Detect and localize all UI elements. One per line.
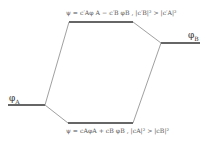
connector-lower-to-b (133, 43, 161, 123)
phi-b-label: φB (188, 30, 199, 42)
phi-a-subscript: A (15, 98, 19, 105)
phi-b-subscript: B (194, 35, 198, 42)
connector-upper-to-b (133, 22, 161, 43)
antibonding-equation: ψ = c′Aφ A − c′B φB , |c′B|² > |c′A|² (66, 9, 177, 16)
connector-a-to-upper (45, 22, 69, 105)
connector-a-to-lower (45, 105, 68, 123)
bonding-equation: ψ = cAφA + cB φB , |cA|² > |cB|² (66, 127, 169, 134)
mo-diagram (0, 0, 206, 146)
phi-a-label: φA (9, 93, 20, 105)
